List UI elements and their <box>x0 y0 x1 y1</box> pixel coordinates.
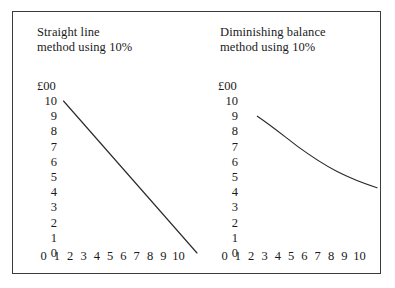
diminishing-balance-depreciation-curve <box>196 12 382 275</box>
straight-line-depreciation-curve <box>13 12 199 275</box>
figure-frame: Straight line method using 10% £00 10 9 … <box>12 11 381 274</box>
chart-panel-straight-line: Straight line method using 10% £00 10 9 … <box>13 12 198 273</box>
chart-panel-diminishing-balance: Diminishing balance method using 10% £00… <box>196 12 382 273</box>
